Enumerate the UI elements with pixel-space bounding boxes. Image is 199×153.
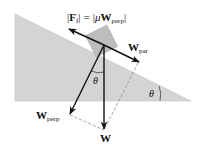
w-perp-label: Wperp <box>36 109 60 123</box>
theta-label-vertex: θ <box>93 75 98 86</box>
weight-label: W <box>100 132 111 144</box>
theta-label-incline: θ <box>149 88 154 99</box>
w-par-label: Wpar <box>128 41 149 55</box>
dashed-line-perp-to-w <box>70 115 104 130</box>
incline-free-body-diagram: |Ff|=|μWperp| Wpar Wperp W θ θ <box>0 0 199 153</box>
diagram-canvas: |Ff|=|μWperp| Wpar Wperp W θ θ <box>0 0 199 153</box>
friction-equation: |Ff|=|μWperp| <box>67 11 126 25</box>
